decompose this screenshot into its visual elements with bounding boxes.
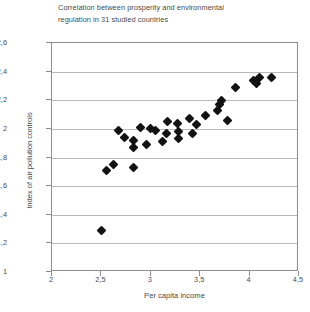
- x-tick-label: 2: [49, 275, 53, 284]
- data-point: [128, 163, 138, 173]
- x-tick-label: 3: [148, 275, 152, 284]
- y-tick-label: 1,6: [0, 181, 7, 190]
- chart-root: Correlation between prosperity and envir…: [0, 0, 310, 312]
- y-tick-label: 1,2: [0, 238, 7, 247]
- x-tick-label: 3,5: [194, 275, 204, 284]
- x-tick-mark: [100, 271, 101, 276]
- gridline: [52, 243, 297, 244]
- chart-title: Correlation between prosperity and envir…: [58, 2, 298, 25]
- data-point: [174, 134, 184, 144]
- data-point: [101, 165, 111, 175]
- data-point: [136, 122, 146, 132]
- data-point: [173, 118, 183, 128]
- data-point: [223, 115, 233, 125]
- data-point: [119, 133, 129, 143]
- data-point: [266, 72, 276, 82]
- x-tick-mark: [298, 271, 299, 276]
- data-point: [142, 140, 152, 150]
- y-tick-label: 2,6: [0, 38, 7, 47]
- data-point: [163, 117, 173, 127]
- y-tick-label: 2,4: [0, 66, 7, 75]
- x-tick-label: 4: [247, 275, 251, 284]
- y-tick-label: 2,2: [0, 95, 7, 104]
- data-point: [231, 82, 241, 92]
- y-axis-label: Index of air pollution controls: [25, 66, 34, 256]
- y-tick-label: 2: [3, 123, 7, 132]
- x-tick-mark: [199, 271, 200, 276]
- gridline: [52, 215, 297, 216]
- x-tick-label: 2,5: [95, 275, 105, 284]
- gridline: [52, 158, 297, 159]
- x-axis-label: Per capita income: [51, 291, 298, 300]
- plot-area: [51, 42, 298, 271]
- data-point: [200, 111, 210, 121]
- data-point: [96, 226, 106, 236]
- data-point: [128, 143, 138, 153]
- plot-inner: [52, 43, 297, 270]
- data-point: [151, 125, 161, 135]
- y-tick-label: 1,8: [0, 152, 7, 161]
- chart-title-line-1: Correlation between prosperity and envir…: [58, 2, 298, 14]
- chart-title-line-2: regulation in 31 studied countries: [58, 14, 298, 26]
- x-tick-label: 4,5: [293, 275, 303, 284]
- x-tick-mark: [249, 271, 250, 276]
- gridline: [52, 100, 297, 101]
- x-tick-mark: [51, 271, 52, 276]
- x-tick-mark: [150, 271, 151, 276]
- gridline: [52, 186, 297, 187]
- y-tick-label: 1: [3, 267, 7, 276]
- y-tick-label: 1,4: [0, 209, 7, 218]
